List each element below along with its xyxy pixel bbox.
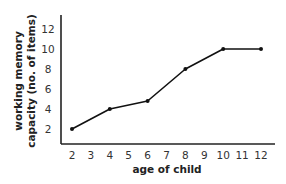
- line-chart: 24681012 23456789101112 working memory c…: [0, 0, 286, 184]
- data-point: [259, 47, 263, 51]
- x-tick-label: 12: [254, 149, 267, 161]
- x-tick-label: 3: [88, 149, 95, 161]
- x-tick-label: 10: [217, 149, 230, 161]
- y-axis-label-line-1: working memory: [12, 31, 24, 131]
- x-tick-label: 2: [69, 149, 76, 161]
- data-point: [70, 127, 74, 131]
- y-tick-label: 8: [45, 63, 52, 75]
- y-axis-ticks: 24681012: [41, 23, 54, 135]
- y-tick-label: 4: [45, 103, 52, 115]
- axes: [61, 15, 275, 144]
- y-axis-label-line-2: capacity (no. of items): [25, 14, 37, 148]
- x-tick-label: 8: [182, 149, 189, 161]
- y-tick-label: 10: [41, 43, 54, 55]
- x-tick-label: 9: [201, 149, 208, 161]
- data-point: [108, 107, 112, 111]
- data-series: [70, 47, 263, 131]
- x-tick-label: 7: [163, 149, 170, 161]
- x-tick-label: 4: [106, 149, 113, 161]
- series-line: [72, 49, 261, 129]
- x-tick-label: 11: [235, 149, 248, 161]
- x-axis-label: age of child: [132, 163, 201, 175]
- x-axis-ticks: 23456789101112: [69, 149, 268, 161]
- y-tick-label: 6: [45, 83, 52, 95]
- data-point: [221, 47, 225, 51]
- data-point: [146, 99, 150, 103]
- x-tick-label: 5: [125, 149, 132, 161]
- x-tick-label: 6: [144, 149, 151, 161]
- y-tick-label: 2: [45, 123, 52, 135]
- data-point: [183, 67, 187, 71]
- y-tick-label: 12: [41, 23, 54, 35]
